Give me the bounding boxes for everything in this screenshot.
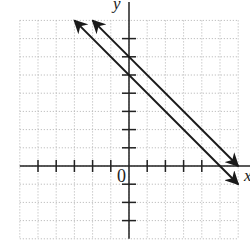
line-lower [74,20,238,184]
y-axis-label: y [113,0,121,14]
plotted-lines [74,20,238,184]
axes [20,2,250,239]
origin-label: 0 [117,166,126,187]
coordinate-plane [0,0,250,251]
x-axis-label: x [244,166,250,186]
